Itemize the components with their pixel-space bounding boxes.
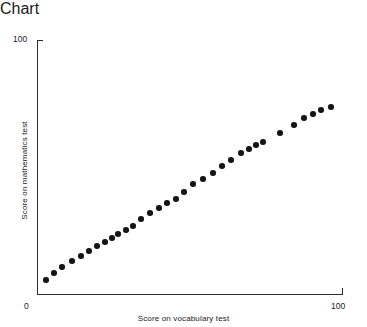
- data-point: [291, 122, 297, 128]
- data-point: [51, 270, 57, 276]
- x-axis-max-tick-label: 100: [331, 302, 345, 311]
- data-point: [318, 107, 324, 113]
- data-point: [94, 243, 100, 249]
- data-point: [228, 157, 234, 163]
- data-point: [246, 146, 252, 152]
- x-axis-title: Score on vocabulary test: [0, 314, 367, 323]
- data-point: [43, 277, 49, 283]
- data-point: [130, 223, 136, 229]
- data-point: [173, 196, 179, 202]
- data-point: [190, 181, 196, 187]
- data-point: [147, 210, 153, 216]
- data-point: [260, 139, 266, 145]
- data-point: [219, 163, 225, 169]
- data-point: [156, 205, 162, 211]
- data-point: [102, 239, 108, 245]
- data-point: [253, 142, 259, 148]
- plot-area: [37, 40, 342, 294]
- y-axis-max-tick-label: 100: [13, 35, 27, 44]
- data-point: [181, 189, 187, 195]
- data-point: [109, 235, 115, 241]
- scatter-chart-figure: 100 0 100 Score on vocabulary test Score…: [0, 18, 367, 327]
- data-point: [69, 258, 75, 264]
- data-point: [123, 227, 129, 233]
- data-point: [210, 170, 216, 176]
- y-axis-title: Score on mathematics test: [20, 91, 29, 251]
- data-point: [164, 200, 170, 206]
- data-point: [277, 130, 283, 136]
- axis-origin-tick-label: 0: [24, 302, 29, 311]
- data-point: [78, 253, 84, 259]
- data-point: [238, 150, 244, 156]
- data-point: [301, 115, 307, 121]
- data-point: [138, 216, 144, 222]
- data-point: [328, 104, 334, 110]
- data-point: [59, 264, 65, 270]
- data-point: [310, 111, 316, 117]
- data-point: [86, 248, 92, 254]
- data-point: [200, 176, 206, 182]
- data-point: [115, 231, 121, 237]
